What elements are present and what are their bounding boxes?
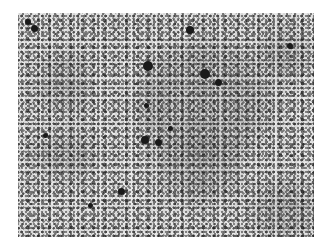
dark-particle — [215, 79, 222, 86]
dark-particle — [25, 19, 31, 25]
dark-particle — [287, 43, 293, 49]
micrograph-image — [18, 13, 314, 237]
dark-particle — [168, 126, 173, 131]
dark-particle — [144, 103, 149, 108]
dark-particle — [143, 61, 153, 71]
dark-particle — [155, 139, 162, 146]
dark-particle — [141, 136, 149, 144]
dark-particle — [186, 26, 194, 34]
dark-particle — [43, 133, 48, 138]
dark-particle — [31, 25, 38, 32]
dark-particle — [200, 69, 210, 79]
particle-layer-coarse — [18, 13, 314, 237]
dark-particle — [88, 203, 93, 208]
dark-particle — [118, 188, 125, 195]
